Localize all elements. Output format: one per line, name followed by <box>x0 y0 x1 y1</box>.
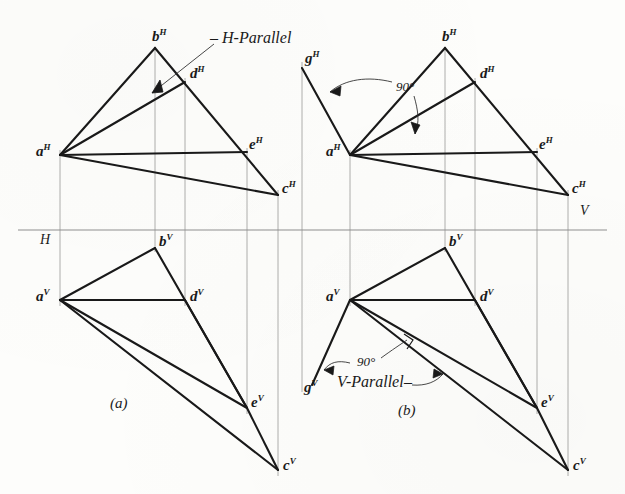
label-point-dH-left: dH <box>190 65 205 81</box>
v-parallel-leader-b <box>412 369 443 385</box>
label-point-cH-left: cH <box>282 180 296 196</box>
label-point-dV-left: dV <box>190 288 204 304</box>
annotation-angle-b-bottom: 90° <box>357 355 375 368</box>
label-point-aV-right: aV <box>326 288 340 304</box>
line-aH-cH-left <box>60 155 278 195</box>
geometry-drawing <box>0 0 625 494</box>
label-point-cV-left: cV <box>283 457 296 473</box>
line-bH-cH-right <box>445 48 568 195</box>
line-aV-bV-right <box>350 248 445 300</box>
label-point-eH-right: eH <box>539 136 553 152</box>
label-point-dH-right: dH <box>480 65 495 81</box>
label-point-aH-left: aH <box>36 143 51 159</box>
line-aH-bH-right <box>350 48 445 155</box>
label-point-cH-right: cH <box>572 180 586 196</box>
label-point-eV-left: eV <box>251 394 264 410</box>
line-eV-cV-right <box>537 408 568 470</box>
technical-drawing-canvas: aH bH dH eH cH aV bV dV eV cV aH bH dH e… <box>0 0 625 494</box>
label-point-bH-left: bH <box>152 28 167 44</box>
label-point-aV-left: aV <box>36 288 50 304</box>
label-point-cV-right: cV <box>573 457 586 473</box>
label-point-gV-right: gV <box>304 379 318 395</box>
line-dV-eV-right <box>475 300 537 408</box>
annotation-h-parallel: H-Parallel <box>222 30 291 46</box>
label-point-bV-left: bV <box>159 233 173 249</box>
label-plane-v: V <box>580 204 589 218</box>
line-aV-cV-left <box>60 300 278 470</box>
angle-arrowhead-right-b-top <box>411 122 420 134</box>
annotation-v-parallel: V-Parallel <box>337 374 404 390</box>
figure-b-top-view <box>302 48 568 195</box>
label-point-gH-right: gH <box>305 50 320 66</box>
v-parallel-dash: – <box>404 374 412 390</box>
line-eV-cV-left <box>247 408 278 470</box>
caption-subfigure-b: (b) <box>398 403 416 418</box>
h-parallel-dash: – <box>210 30 218 46</box>
line-dV-eV-left <box>185 300 247 408</box>
line-aV-bV-left <box>60 248 155 300</box>
label-point-eV-right: eV <box>541 394 554 410</box>
line-aH-gH-right <box>302 68 350 155</box>
line-aH-bH-left <box>60 48 155 155</box>
line-aH-eH-left <box>60 152 247 155</box>
leader-arrowhead-h-parallel <box>152 80 163 93</box>
label-point-dV-right: dV <box>480 288 494 304</box>
label-point-aH-right: aH <box>326 143 341 159</box>
line-aV-eV-left <box>60 300 247 408</box>
caption-subfigure-a: (a) <box>110 396 128 411</box>
angle-arrowhead-left-b-bottom <box>324 366 334 375</box>
angle-leader-right-b-bottom <box>381 340 407 358</box>
line-aH-cH-right <box>350 155 568 195</box>
label-point-bH-right: bH <box>442 28 457 44</box>
line-aH-eH-right <box>350 152 537 155</box>
line-aV-eV-right <box>350 300 537 408</box>
line-aH-dH-left <box>60 82 185 155</box>
figure-a-top-view <box>60 48 278 195</box>
annotation-angle-b-top: 90° <box>396 80 414 93</box>
label-point-eH-left: eH <box>249 136 263 152</box>
label-plane-h: H <box>40 233 50 247</box>
line-bH-cH-left <box>155 48 278 195</box>
figure-a-front-view <box>60 248 278 470</box>
label-point-bV-right: bV <box>449 233 463 249</box>
